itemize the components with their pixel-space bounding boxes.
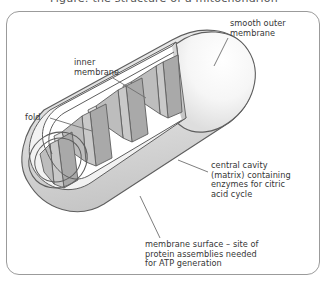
- leader-central-cavity: [178, 160, 208, 172]
- label-smooth-outer-membrane: smooth outer membrane: [230, 19, 322, 38]
- figure-root: Figure: the structure of a mitochondrion: [0, 0, 328, 285]
- label-fold: fold: [25, 113, 65, 123]
- label-central-cavity: central cavity (matrix) containing enzym…: [211, 161, 323, 199]
- label-membrane-surface: membrane surface – site of protein assem…: [145, 240, 317, 269]
- leader-membrane-surface: [140, 196, 160, 238]
- label-inner-membrane: inner membrane: [74, 58, 148, 77]
